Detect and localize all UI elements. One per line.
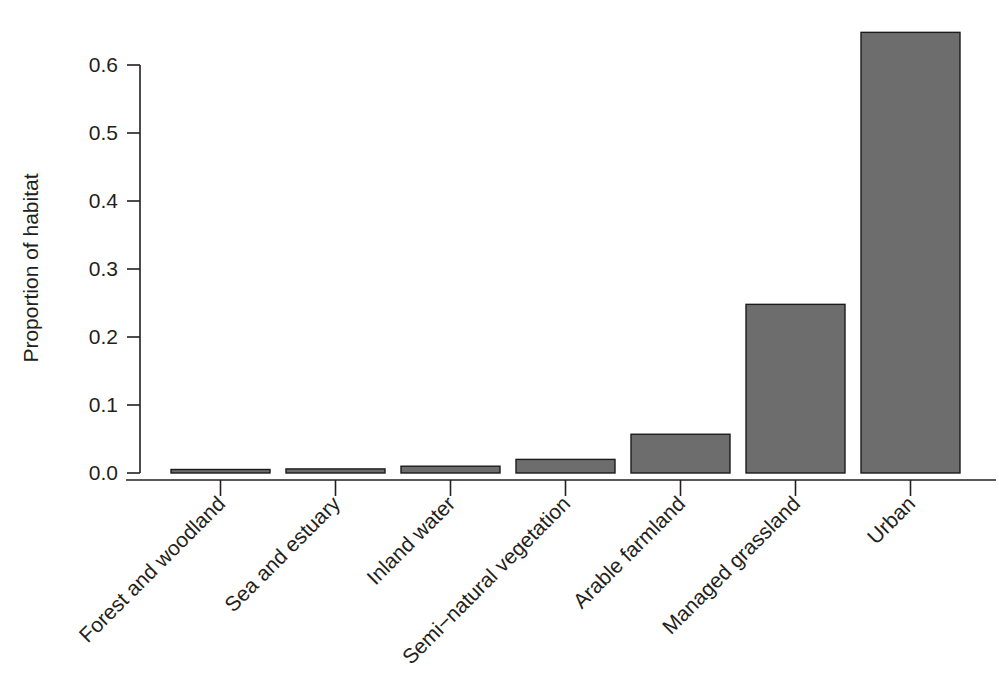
y-tick-label: 0.3 [89,257,118,280]
y-tick-label: 0.2 [89,325,118,348]
y-tick-label: 0.5 [89,121,118,144]
bar [171,470,270,474]
chart-canvas: 0.00.10.20.30.40.50.6 Forest and woodlan… [0,0,999,679]
bar [746,304,845,473]
y-tick-label: 0.1 [89,393,118,416]
y-tick-label: 0.0 [89,461,118,484]
bar [286,469,385,473]
bar [401,466,500,473]
bar-chart: 0.00.10.20.30.40.50.6 Forest and woodlan… [0,0,999,679]
bar [631,434,730,473]
y-tick-label: 0.6 [89,53,118,76]
bar [861,32,960,473]
y-axis-title: Proportion of habitat [19,173,42,362]
y-tick-label: 0.4 [89,189,119,212]
bar [516,459,615,473]
